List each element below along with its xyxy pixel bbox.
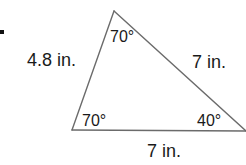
- angle-top-label: 70°: [110, 28, 134, 45]
- problem-marker: [0, 30, 4, 34]
- angle-bottom-left-label: 70°: [82, 112, 106, 129]
- triangle-diagram: 4.8 in. 7 in. 7 in. 70° 70° 40°: [0, 0, 246, 165]
- side-left-label: 4.8 in.: [27, 50, 76, 70]
- side-right-label: 7 in.: [192, 52, 226, 72]
- angle-bottom-right-label: 40°: [197, 112, 221, 129]
- side-bottom-line: [72, 130, 246, 131]
- side-bottom-label: 7 in.: [147, 141, 181, 161]
